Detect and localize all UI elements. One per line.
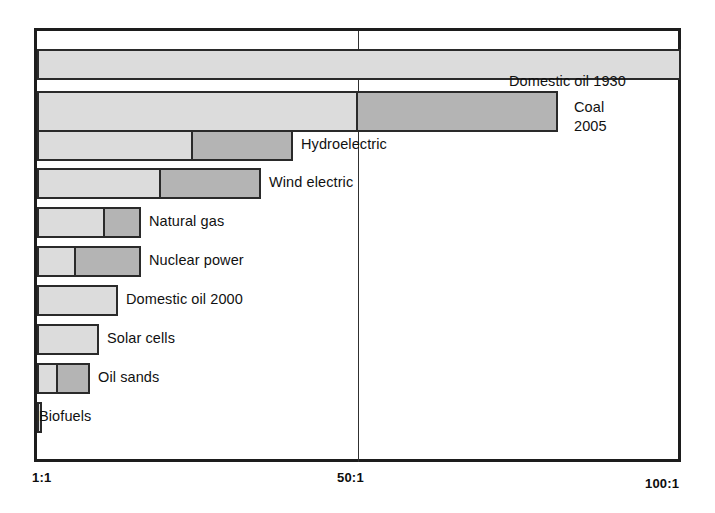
bar-segment-light xyxy=(37,246,76,277)
axis-tick-1-to-1: 1:1 xyxy=(32,470,51,485)
bar-label-coal-2005-line2: 2005 xyxy=(574,117,607,135)
bar-wind-electric[interactable] xyxy=(37,168,261,199)
bar-oil-sands[interactable] xyxy=(37,363,90,394)
bar-segment-light xyxy=(37,363,58,394)
bar-hydroelectric[interactable] xyxy=(37,130,293,161)
bar-segment-light xyxy=(37,168,161,199)
bar-label-nuclear-power: Nuclear power xyxy=(149,252,244,269)
bar-coal-2005[interactable] xyxy=(37,91,558,132)
bar-label-domestic-oil-1930: Domestic oil 1930 xyxy=(509,73,626,90)
bar-segment-light xyxy=(37,91,358,132)
bar-nuclear-power[interactable] xyxy=(37,246,141,277)
bar-segment-dark xyxy=(356,91,558,132)
bar-natural-gas[interactable] xyxy=(37,207,141,238)
eroi-bar-chart: Domestic oil 1930 Coal 2005 Hydroelectri… xyxy=(0,0,715,513)
bar-segment-dark xyxy=(103,207,141,238)
bar-segment-dark xyxy=(74,246,141,277)
bar-segment-light xyxy=(37,207,105,238)
bar-domestic-oil-2000[interactable] xyxy=(37,285,118,316)
axis-tick-50-to-1: 50:1 xyxy=(337,470,364,485)
bar-label-wind-electric: Wind electric xyxy=(269,174,353,191)
bar-segment-light xyxy=(37,285,118,316)
bar-segment-dark xyxy=(159,168,261,199)
bar-segment-light xyxy=(37,130,193,161)
bar-label-biofuels: Biofuels xyxy=(39,408,91,425)
bar-label-hydroelectric: Hydroelectric xyxy=(301,136,387,153)
axis-tick-100-to-1: 100:1 xyxy=(645,476,679,491)
bar-label-coal-2005-line1: Coal xyxy=(574,98,604,116)
plot-area: Domestic oil 1930 Coal 2005 Hydroelectri… xyxy=(37,31,681,459)
bar-segment-dark xyxy=(56,363,90,394)
bar-label-oil-sands: Oil sands xyxy=(98,369,159,386)
bar-label-natural-gas: Natural gas xyxy=(149,213,224,230)
bar-solar-cells[interactable] xyxy=(37,324,99,355)
bar-label-domestic-oil-2000: Domestic oil 2000 xyxy=(126,291,243,308)
bar-segment-dark xyxy=(191,130,293,161)
bar-segment-light xyxy=(37,324,99,355)
bar-label-solar-cells: Solar cells xyxy=(107,330,175,347)
